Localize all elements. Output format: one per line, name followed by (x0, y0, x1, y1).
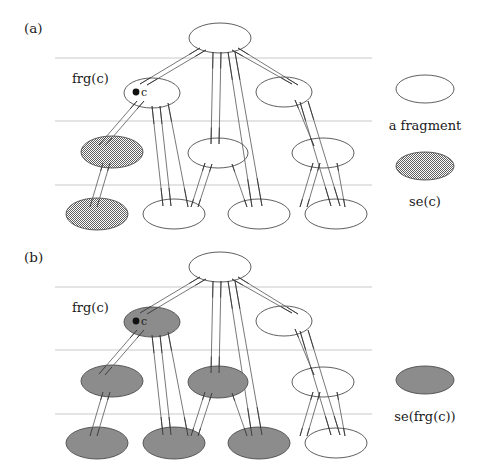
edge-stub-a-10 (168, 103, 172, 122)
node-b-l4-1[interactable] (66, 427, 128, 459)
node-b-l4-3[interactable] (228, 427, 290, 459)
panel-label-b: (b) (24, 249, 43, 265)
edge-stub-end-a-21 (300, 199, 302, 207)
panel-a: (a)frg(c)ca fragmentse(c) (24, 20, 462, 230)
edge-stub-b-5 (238, 277, 249, 284)
edge-stub-a-5 (238, 48, 249, 55)
node-b-l2-1[interactable] (124, 307, 180, 337)
legend-fragment-ellipse-a (396, 75, 454, 103)
node-a-l4-3[interactable] (228, 199, 290, 229)
node-a-l4-2[interactable] (143, 199, 205, 229)
edge-stub-b-0 (189, 277, 200, 283)
node-a-l4-4[interactable] (305, 199, 367, 229)
c-marker-dot-a (133, 89, 140, 96)
legend-se-ellipse-a (396, 152, 454, 180)
panel-label-a: (a) (24, 20, 43, 36)
edge-stub-b-1 (195, 279, 206, 285)
edge-stub-a-12 (235, 52, 240, 80)
legend-se-label-b: se(frg(c)) (394, 409, 455, 424)
edge-stub-b-14 (308, 330, 314, 349)
edge-stub-end-b-21 (300, 428, 302, 436)
node-b-l2-2[interactable] (256, 306, 312, 336)
node-b-l4-2[interactable] (143, 427, 205, 459)
edge-stub-a-14 (308, 101, 314, 120)
node-b-root[interactable] (189, 252, 251, 282)
node-b-l3-2[interactable] (188, 366, 248, 398)
node-a-root[interactable] (189, 23, 251, 53)
edge-stub-end-a-22 (307, 199, 309, 207)
legend-fragment-label-a: a fragment (389, 118, 462, 133)
frg-label-b: frg(c) (72, 300, 109, 315)
figure-canvas: (a)frg(c)ca fragmentse(c) (b)frg(c)cse(f… (0, 0, 487, 475)
legend-se-ellipse-b (396, 366, 454, 394)
c-label-a: c (141, 86, 147, 99)
node-b-l3-3[interactable] (292, 367, 354, 397)
node-a-l2-1[interactable] (124, 78, 180, 108)
edge-stub-a-1 (195, 50, 206, 56)
node-a-l4-1[interactable] (66, 198, 128, 230)
edge-stub-b-10 (168, 332, 172, 351)
edge-stub-b-12 (235, 281, 240, 309)
frg-label-a: frg(c) (72, 71, 109, 86)
c-marker-dot-b (133, 318, 140, 325)
node-a-l3-3[interactable] (292, 138, 354, 168)
edge-stub-a-11 (228, 52, 232, 80)
c-label-b: c (141, 315, 147, 328)
edge-stub-a-0 (189, 48, 200, 54)
node-a-l2-2[interactable] (256, 77, 312, 107)
node-a-l3-1[interactable] (81, 136, 143, 168)
figure-root: (a)frg(c)ca fragmentse(c) (b)frg(c)cse(f… (0, 0, 487, 475)
legend-se-label-a: se(c) (409, 194, 441, 209)
node-b-l3-1[interactable] (81, 365, 143, 397)
node-a-l3-2[interactable] (188, 138, 248, 168)
node-b-l4-4[interactable] (305, 428, 367, 458)
edge-stub-b-11 (228, 281, 232, 309)
edge-stub-end-b-22 (307, 428, 309, 436)
panel-b: (b)frg(c)cse(frg(c)) (24, 249, 456, 459)
